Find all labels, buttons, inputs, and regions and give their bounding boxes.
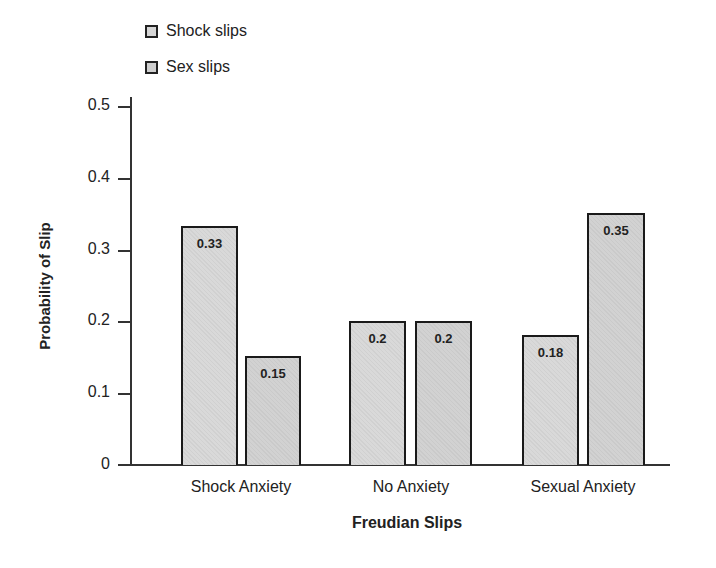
bar-no-anxiety-sex-slips: 0.2 [415,321,472,465]
y-tick-label: 0.3 [70,240,110,258]
y-tick [118,106,130,108]
legend-swatch-sex-icon [145,61,158,74]
legend-label: Sex slips [166,58,230,76]
bar-sexual-anxiety-sex-slips: 0.35 [587,213,645,465]
legend-swatch-shock-icon [145,25,158,38]
bar-value-label: 0.35 [589,223,643,238]
bar-value-label: 0.18 [524,345,577,360]
y-axis-line [130,97,132,466]
y-tick-label: 0.1 [70,383,110,401]
y-tick [118,178,130,180]
y-tick-label: 0 [70,455,110,473]
x-category-label: Shock Anxiety [161,478,321,496]
y-tick [118,393,130,395]
legend-item-sex-slips: Sex slips [145,58,230,76]
y-tick-label: 0.4 [70,168,110,186]
y-tick-label: 0.2 [70,311,110,329]
y-tick [118,321,130,323]
bar-value-label: 0.2 [417,331,470,346]
bar-value-label: 0.33 [183,236,236,251]
y-axis-label: Probability of Slip [36,222,53,350]
bar-value-label: 0.2 [351,331,404,346]
bar-no-anxiety-shock-slips: 0.2 [349,321,406,465]
x-category-label: No Anxiety [331,478,491,496]
bar-shock-anxiety-shock-slips: 0.33 [181,226,238,465]
legend-label: Shock slips [166,22,247,40]
legend-item-shock-slips: Shock slips [145,22,247,40]
x-category-label: Sexual Anxiety [503,478,663,496]
x-axis-label: Freudian Slips [0,514,716,532]
y-tick-label: 0.5 [70,96,110,114]
bar-shock-anxiety-sex-slips: 0.15 [245,356,301,465]
y-tick [118,250,130,252]
bar-value-label: 0.15 [247,366,299,381]
bar-sexual-anxiety-shock-slips: 0.18 [522,335,579,465]
